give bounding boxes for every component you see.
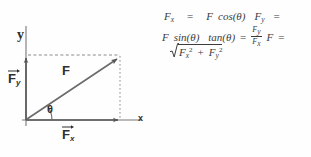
fraction-denominator: Fx: [251, 38, 261, 48]
angle-theta-label: θ: [47, 104, 53, 115]
figure-root: y x F θ Fy: [0, 0, 311, 157]
radicand: Fx2+Fy2: [179, 44, 222, 60]
resultant-vector: [27, 59, 117, 119]
eq1-cos-fn: cos(θ): [218, 10, 245, 22]
fx-symbol-group: F: [62, 128, 70, 141]
vector-arrow-icon: [8, 68, 15, 73]
x-axis-label: x: [138, 114, 143, 123]
eq2-equals-2: =: [278, 31, 284, 43]
eq1-equals-2: =: [274, 10, 280, 22]
eq2-fraction: FyFx: [251, 26, 261, 48]
frac-den-sub: x: [257, 40, 260, 48]
eq2-lhs3-F: F: [267, 31, 274, 43]
eq2-F: F: [162, 31, 169, 43]
frac-num-sub: y: [257, 28, 260, 36]
eq2-tan-fn: tan(θ): [208, 31, 235, 43]
eq3-term2-sup: 2: [219, 46, 223, 54]
eq1-lhs2-sub: y: [261, 15, 264, 24]
fraction-numerator: Fy: [251, 26, 261, 36]
eq2-equals: =: [240, 31, 246, 43]
radical-sign-icon: [170, 43, 179, 58]
fx-component-label: Fx: [62, 128, 74, 143]
eq2-sin-fn: sin(θ): [174, 31, 200, 43]
eq1-equals: =: [187, 10, 193, 22]
diagram-canvas: [0, 0, 158, 157]
y-axis-label: y: [17, 28, 24, 42]
fy-symbol-group: F: [8, 72, 16, 85]
resultant-force-label: F: [62, 64, 70, 77]
radical-vinculum: [178, 44, 222, 45]
vector-arrow-icon: [62, 124, 69, 129]
fy-component-label: Fy: [8, 72, 20, 87]
eq3-term1-F: F: [179, 46, 186, 58]
eq3-term2-F: F: [209, 46, 216, 58]
equation-block: Fx=Fcos(θ)Fy= Fsin(θ)tan(θ)=FyFxF= Fx2+F…: [158, 0, 311, 157]
equation-line-1: Fx=Fcos(θ)Fy=: [164, 10, 280, 24]
eq3-plus: +: [198, 46, 204, 58]
fy-subscript: y: [16, 78, 20, 87]
fx-subscript: x: [70, 134, 74, 143]
fy-symbol: F: [8, 71, 16, 86]
square-root-expression: Fx2+Fy2: [170, 44, 222, 60]
eq1-rhs-F: F: [206, 10, 213, 22]
eq1-lhs-F: F: [164, 10, 171, 22]
equation-line-3: Fx2+Fy2: [170, 44, 222, 60]
vector-diagram: y x F θ Fy: [0, 0, 158, 157]
eq3-term1-sup: 2: [189, 46, 193, 54]
eq1-lhs-sub: x: [171, 15, 174, 24]
fx-symbol: F: [62, 127, 70, 142]
